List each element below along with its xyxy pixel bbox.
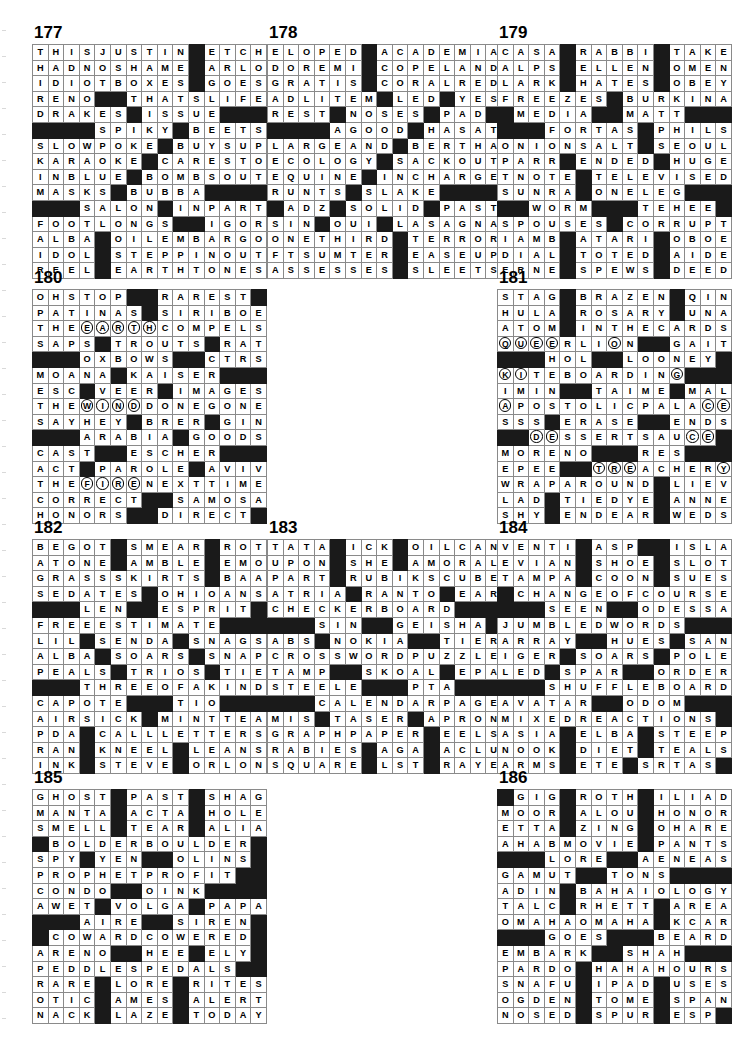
- crossword-block-cell: [560, 883, 576, 899]
- crossword-letter-cell: I: [470, 45, 486, 61]
- crossword-block-cell: [251, 602, 267, 618]
- crossword-letter-cell: A: [455, 695, 471, 711]
- crossword-letter-cell: S: [513, 414, 529, 430]
- crossword-row: SINOUILASAGNA: [268, 216, 502, 232]
- crossword-letter-cell: O: [529, 805, 545, 821]
- crossword-letter-cell: E: [622, 836, 638, 852]
- crossword-letter-cell: C: [268, 649, 284, 665]
- crossword-letter-cell: S: [95, 122, 111, 138]
- crossword-block-cell: [591, 633, 607, 649]
- crossword-letter-cell: A: [716, 602, 732, 618]
- crossword-letter-cell: E: [622, 76, 638, 92]
- crossword-letter-cell: O: [653, 883, 669, 899]
- crossword-letter-cell: U: [455, 571, 471, 587]
- crossword-letter-cell: T: [173, 790, 189, 806]
- crossword-letter-cell: S: [560, 430, 576, 446]
- crossword-letter-cell: L: [48, 232, 64, 248]
- crossword-block-cell: [330, 540, 346, 556]
- crossword-letter-cell: Z: [314, 200, 330, 216]
- crossword-letter-cell: D: [439, 602, 455, 618]
- crossword-letter-cell: T: [251, 200, 267, 216]
- crossword-letter-cell: D: [638, 247, 654, 263]
- crossword-letter-cell: H: [33, 60, 49, 76]
- puzzle-number: 186: [499, 769, 732, 786]
- crossword-letter-cell: W: [607, 617, 623, 633]
- crossword-letter-cell: S: [33, 138, 49, 154]
- crossword-letter-cell: S: [591, 216, 607, 232]
- crossword-letter-cell: O: [173, 852, 189, 868]
- crossword-letter-cell: E: [700, 727, 716, 743]
- crossword-block-cell: [439, 185, 455, 201]
- crossword-letter-cell: S: [299, 263, 315, 279]
- crossword-letter-cell: E: [455, 727, 471, 743]
- crossword-letter-cell: A: [251, 492, 267, 508]
- crossword-letter-cell: B: [142, 836, 158, 852]
- crossword-block-cell: [423, 727, 439, 743]
- crossword-block-cell: [498, 430, 514, 446]
- crossword-letter-cell: I: [95, 914, 111, 930]
- crossword-letter-cell: A: [188, 680, 204, 696]
- crossword-letter-cell: B: [64, 649, 80, 665]
- crossword-letter-cell: A: [48, 336, 64, 352]
- crossword-block-cell: [716, 867, 732, 883]
- crossword-letter-cell: S: [188, 336, 204, 352]
- crossword-letter-cell: H: [95, 680, 111, 696]
- crossword-letter-cell: A: [33, 711, 49, 727]
- crossword-letter-cell: G: [235, 232, 251, 248]
- crossword-block-cell: [188, 461, 204, 477]
- crossword-letter-cell: H: [622, 790, 638, 806]
- crossword-letter-cell: O: [591, 185, 607, 201]
- crossword-letter-cell: U: [268, 555, 284, 571]
- crossword-block-cell: [361, 169, 377, 185]
- crossword-letter-cell: E: [700, 200, 716, 216]
- crossword-letter-cell: O: [95, 945, 111, 961]
- crossword-row: WORMTEHEE: [498, 200, 732, 216]
- crossword-letter-cell: B: [48, 836, 64, 852]
- crossword-letter-cell: H: [48, 477, 64, 493]
- crossword-block-cell: [377, 680, 393, 696]
- crossword-letter-cell: O: [48, 492, 64, 508]
- crossword-letter-cell: S: [64, 185, 80, 201]
- crossword-letter-cell: G: [669, 185, 685, 201]
- crossword-letter-cell: M: [33, 367, 49, 383]
- crossword-block-cell: [622, 200, 638, 216]
- crossword-letter-cell: A: [591, 664, 607, 680]
- crossword-letter-cell: N: [560, 992, 576, 1008]
- crossword-letter-cell: S: [79, 571, 95, 587]
- crossword-letter-cell: D: [560, 1008, 576, 1024]
- crossword-letter-cell: E: [188, 445, 204, 461]
- crossword-block-cell: [64, 122, 80, 138]
- crossword-letter-cell: E: [498, 945, 514, 961]
- crossword-letter-cell: S: [173, 914, 189, 930]
- crossword-letter-cell: M: [622, 107, 638, 123]
- crossword-row: SLOWPOKEBUYSUP: [33, 138, 267, 154]
- crossword-letter-cell: A: [560, 571, 576, 587]
- crossword-block-cell: [638, 540, 654, 556]
- crossword-letter-cell: R: [575, 852, 591, 868]
- crossword-letter-cell: S: [330, 263, 346, 279]
- crossword-letter-cell: N: [607, 185, 623, 201]
- crossword-letter-cell: A: [268, 586, 284, 602]
- crossword-letter-cell: L: [268, 138, 284, 154]
- crossword-block-cell: [126, 602, 142, 618]
- crossword-letter-cell: I: [142, 107, 158, 123]
- crossword-letter-cell: T: [314, 76, 330, 92]
- crossword-letter-cell: E: [188, 367, 204, 383]
- crossword-letter-cell: B: [142, 414, 158, 430]
- crossword-letter-cell: N: [251, 414, 267, 430]
- crossword-letter-cell: R: [700, 930, 716, 946]
- crossword-letter-cell: D: [638, 695, 654, 711]
- crossword-letter-cell: A: [110, 992, 126, 1008]
- crossword-block-cell: [439, 586, 455, 602]
- crossword-letter-cell: A: [439, 742, 455, 758]
- crossword-letter-cell: S: [79, 336, 95, 352]
- crossword-letter-cell: L: [607, 138, 623, 154]
- crossword-letter-cell: U: [173, 836, 189, 852]
- crossword-letter-cell: D: [544, 107, 560, 123]
- crossword-letter-cell: O: [235, 305, 251, 321]
- crossword-letter-cell: L: [110, 200, 126, 216]
- crossword-letter-cell: S: [33, 821, 49, 837]
- crossword-letter-cell: S: [377, 263, 393, 279]
- crossword-block-cell: [299, 617, 315, 633]
- crossword-letter-cell: N: [283, 232, 299, 248]
